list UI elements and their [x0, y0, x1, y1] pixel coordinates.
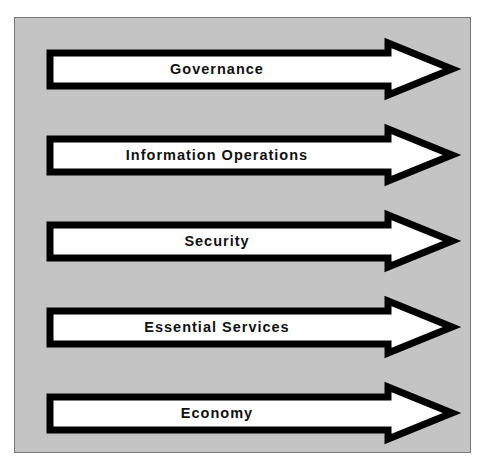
arrow-label-governance: Governance: [52, 50, 382, 89]
arrow-label-economy: Economy: [52, 394, 382, 433]
arrow-label-essential-services: Essential Services: [52, 308, 382, 347]
arrow-label-information-operations: Information Operations: [52, 136, 382, 175]
arrow-label-security: Security: [52, 222, 382, 261]
